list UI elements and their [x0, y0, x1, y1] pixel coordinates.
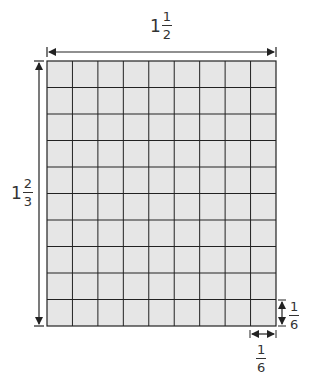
width-label: 1 1 2 [150, 10, 172, 41]
area-model-diagram [0, 0, 313, 383]
cell-height-arrow [278, 300, 286, 326]
unit-grid [47, 61, 276, 326]
height-label-denominator: 3 [24, 193, 32, 208]
cell-height-label-numerator: 1 [289, 300, 299, 316]
width-dimension-arrow [47, 47, 276, 57]
cell-width-label-denominator: 6 [257, 359, 265, 374]
width-label-denominator: 2 [163, 26, 171, 41]
height-label-numerator: 2 [23, 177, 33, 193]
cell-width-label: 1 6 [256, 343, 266, 374]
cell-width-label-numerator: 1 [256, 343, 266, 359]
height-label: 1 2 3 [11, 177, 33, 208]
width-label-numerator: 1 [162, 10, 172, 26]
width-label-whole: 1 [150, 16, 161, 36]
cell-height-label-denominator: 6 [290, 316, 298, 331]
cell-width-arrow [250, 330, 276, 338]
cell-height-label: 1 6 [289, 300, 299, 331]
height-dimension-arrow [34, 61, 44, 326]
height-label-whole: 1 [11, 183, 22, 203]
